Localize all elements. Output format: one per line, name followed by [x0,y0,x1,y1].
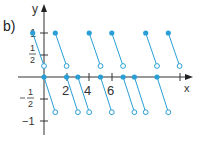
closed-point [75,74,80,79]
svg-text:1: 1 [28,87,33,97]
segment [123,77,134,112]
y-axis-arrow-icon [41,4,47,12]
y-axis-label: y [32,2,38,16]
closed-point [87,30,92,35]
open-point [155,64,160,69]
closed-point [143,30,148,35]
segment [55,33,66,66]
x-tick-6: 6 [107,83,114,98]
svg-text:2: 2 [30,55,35,65]
open-point [132,110,137,115]
x-tick-4: 4 [84,83,91,98]
data-segments [30,30,182,114]
closed-point [30,30,35,35]
x-axis-arrow-icon [185,74,193,80]
y-tick-neg-1: −1 [22,115,35,127]
open-point [98,64,103,69]
segment [44,77,55,112]
svg-text:1: 1 [30,43,35,53]
segment [157,77,168,112]
graph: 2 4 6 x y 1 1 2 1 2 −1 [0,0,201,141]
closed-point [132,74,137,79]
open-point [121,64,126,69]
open-point [76,110,81,115]
segment [112,33,123,66]
open-point [87,110,92,115]
x-tick-2: 2 [62,83,69,98]
segment [134,77,145,112]
segment [89,33,100,66]
closed-point [166,30,171,35]
closed-point [98,74,103,79]
closed-point [64,74,69,79]
open-point [143,110,148,115]
open-point [109,110,114,115]
y-tick-neg-half: 1 2 [20,87,34,109]
closed-point [154,74,159,79]
y-tick-half: 1 2 [29,43,36,65]
x-axis-label: x [184,82,190,94]
closed-point [109,30,114,35]
closed-point [53,30,58,35]
segment [146,33,157,66]
svg-text:2: 2 [28,99,33,109]
closed-point [41,74,46,79]
closed-point [121,74,126,79]
open-point [166,110,171,115]
open-point [53,110,58,115]
open-point [42,64,47,69]
segment [168,33,179,66]
open-point [64,64,69,69]
open-point [177,64,182,69]
